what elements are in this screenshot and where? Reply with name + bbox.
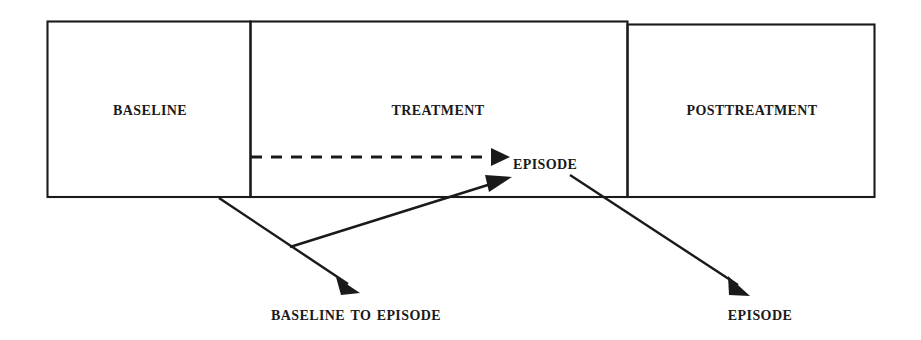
arrowhead-icon (336, 277, 360, 295)
solid-line-segment (290, 184, 491, 247)
connector-baseline-to-caption (219, 198, 360, 295)
connector-treatment-to-episode (251, 148, 510, 166)
arrowhead-icon (728, 276, 750, 296)
phase-label-baseline: Baseline (113, 98, 187, 118)
arrowhead-icon (485, 175, 512, 192)
phase-label-posttreatment: Posttreatment (687, 98, 818, 118)
node-label-episode: Episode (513, 152, 577, 172)
arrowhead-icon (491, 148, 510, 166)
caption-episode: Episode (728, 303, 792, 323)
diagram-vector-layer (0, 0, 921, 340)
solid-line-segment (219, 198, 348, 284)
caption-baseline-to-episode: Baseline to Episode (271, 303, 441, 323)
phase-label-treatment: Treatment (392, 98, 485, 118)
diagram-canvas: Baseline Treatment Posttreatment Episode… (0, 0, 921, 340)
connector-junction-to-episode (290, 175, 512, 247)
solid-line-segment (570, 175, 738, 285)
connector-episode-to-caption (570, 175, 750, 296)
